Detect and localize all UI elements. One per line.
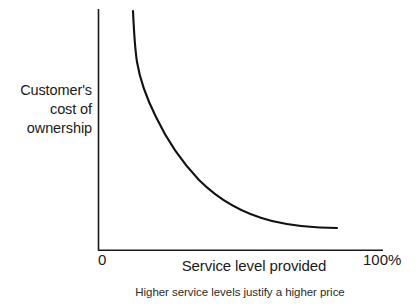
figure-caption: Higher service levels justify a higher p… bbox=[60, 285, 419, 300]
chart-figure: Customer's cost of ownership 0 100% Serv… bbox=[0, 0, 419, 308]
x-axis-tick-label-min: 0 bbox=[98, 251, 106, 269]
y-axis-label-line-1: Customer's bbox=[4, 81, 92, 100]
y-axis-label: Customer's cost of ownership bbox=[4, 81, 92, 138]
y-axis-label-line-3: ownership bbox=[4, 119, 92, 138]
y-axis-label-line-2: cost of bbox=[4, 100, 92, 119]
x-axis-label: Service level provided bbox=[148, 256, 360, 275]
cost-of-ownership-curve bbox=[133, 11, 337, 228]
x-axis-tick-label-max: 100% bbox=[363, 251, 401, 269]
